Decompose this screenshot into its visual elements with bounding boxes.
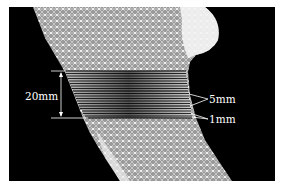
spacing-label-5mm: 5mm — [209, 93, 236, 105]
mesh-figure: 20mm 5mm 1mm — [0, 0, 284, 191]
height-label: 20mm — [25, 90, 58, 102]
spacing-label-1mm: 1mm — [209, 113, 236, 125]
